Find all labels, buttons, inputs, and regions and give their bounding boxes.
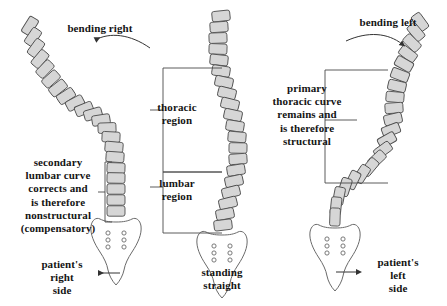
label-standing-straight: standing straight <box>182 266 262 292</box>
label-primary-thoracic-curve: primary thoracic curve remains and is th… <box>258 82 356 148</box>
middle-vertebrae <box>209 10 248 231</box>
curved-arrow-right-icon <box>346 35 402 44</box>
label-thoracic-region: thoracic region <box>148 101 206 127</box>
label-bending-right: bending right <box>46 22 154 35</box>
left-spine-group <box>21 16 150 285</box>
label-lumbar-region: lumbar region <box>148 177 206 203</box>
label-secondary-lumbar-curve: secondary lumbar curve corrects and is t… <box>4 156 112 235</box>
label-patients-left-side: patient's left side <box>364 256 432 296</box>
right-sacrum <box>310 224 360 291</box>
label-patients-right-side: patient's right side <box>26 258 98 298</box>
label-bending-left: bending left <box>338 16 438 29</box>
curved-arrow-left-icon <box>95 35 150 48</box>
middle-spine-group <box>150 10 247 298</box>
spine-bending-diagram: bending right bending left thoracic regi… <box>0 0 447 306</box>
right-spine-group <box>310 12 430 291</box>
